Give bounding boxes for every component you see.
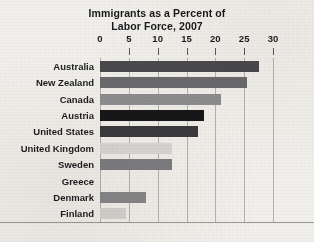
x-axis-tick-label: 10: [152, 33, 163, 44]
y-axis-category-label: Austria: [61, 110, 94, 121]
x-axis-tick-label: 0: [97, 33, 102, 44]
plot-area: [100, 58, 273, 222]
x-axis-tick-mark: [158, 48, 159, 55]
y-axis-category-label: New Zealand: [36, 77, 94, 88]
bar: [100, 208, 126, 219]
y-axis-category-label: United States: [33, 126, 94, 137]
chart-title: Immigrants as a Percent of Labor Force, …: [0, 7, 314, 32]
chart-title-line-1: Immigrants as a Percent of: [0, 7, 314, 20]
y-axis-category-label: Denmark: [53, 192, 94, 203]
x-axis-tick-label: 30: [268, 33, 279, 44]
y-axis-category-label: Greece: [62, 176, 94, 187]
x-axis-tick-label: 25: [239, 33, 250, 44]
x-axis-tick-mark: [129, 48, 130, 55]
bar: [100, 159, 172, 170]
y-axis-category-label: Australia: [53, 61, 94, 72]
y-axis-category-label: Finland: [60, 208, 94, 219]
chart-title-line-2: Labor Force, 2007: [0, 20, 314, 33]
bar: [100, 61, 259, 72]
gridline: [273, 58, 274, 222]
x-axis-tick-mark: [187, 48, 188, 55]
y-axis-category-label: Canada: [60, 94, 94, 105]
y-axis-category-label: United Kingdom: [21, 143, 94, 154]
x-axis-tick-mark: [273, 48, 274, 55]
x-axis-tick-label: 15: [181, 33, 192, 44]
x-axis-tick-label: 20: [210, 33, 221, 44]
y-axis-category-label: Sweden: [58, 159, 94, 170]
bar: [100, 192, 146, 203]
bar: [100, 77, 247, 88]
bar: [100, 143, 172, 154]
bar-chart-figure: Immigrants as a Percent of Labor Force, …: [0, 0, 314, 242]
x-axis-tick-mark: [215, 48, 216, 55]
x-axis-tick-mark: [244, 48, 245, 55]
y-axis-category-labels: AustraliaNew ZealandCanadaAustriaUnited …: [0, 58, 97, 222]
x-axis-tick-marks: [100, 48, 273, 56]
bar: [100, 94, 221, 105]
x-axis-tick-label: 5: [126, 33, 131, 44]
bar: [100, 126, 198, 137]
bottom-axis-line: [0, 222, 314, 223]
bar: [100, 110, 204, 121]
x-axis-tick-labels: 051015202530: [100, 33, 273, 47]
